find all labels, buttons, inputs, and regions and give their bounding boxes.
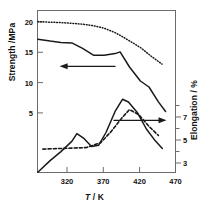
x-tick-label-320: 320 — [53, 177, 81, 186]
y-right-tick-label-5: 5 — [183, 136, 201, 145]
right-axis-ticks — [176, 106, 182, 164]
left-arrow-annotation — [60, 63, 116, 69]
curve-elongation-dashed — [43, 110, 158, 150]
annotation-arrows — [60, 63, 167, 123]
x-axis-title: T / K — [85, 192, 104, 202]
x-axis-title-unit: / K — [90, 192, 104, 202]
x-tick-label-420: 420 — [126, 177, 154, 186]
y-right-tick-label-7: 7 — [183, 113, 201, 122]
y-right-tick-label-3: 3 — [183, 159, 201, 168]
x-tick-label-470: 470 — [162, 177, 190, 186]
curve-strength-solid — [38, 39, 166, 111]
x-tick-label-370: 370 — [89, 177, 117, 186]
bottom-axis-ticks — [67, 167, 176, 173]
y-left-tick-label-15: 15 — [11, 48, 33, 57]
data-curves — [38, 22, 166, 173]
y-left-tick-label-5: 5 — [11, 109, 33, 118]
chart-figure: Strength /MPa Elongation / % T / K 20 15… — [0, 0, 213, 210]
curve-elongation-solid — [38, 99, 163, 172]
y-left-tick-label-10: 10 — [11, 79, 33, 88]
curve-strength-dotted — [38, 22, 162, 65]
y-left-tick-label-20: 20 — [11, 18, 33, 27]
left-axis-ticks — [38, 22, 44, 113]
